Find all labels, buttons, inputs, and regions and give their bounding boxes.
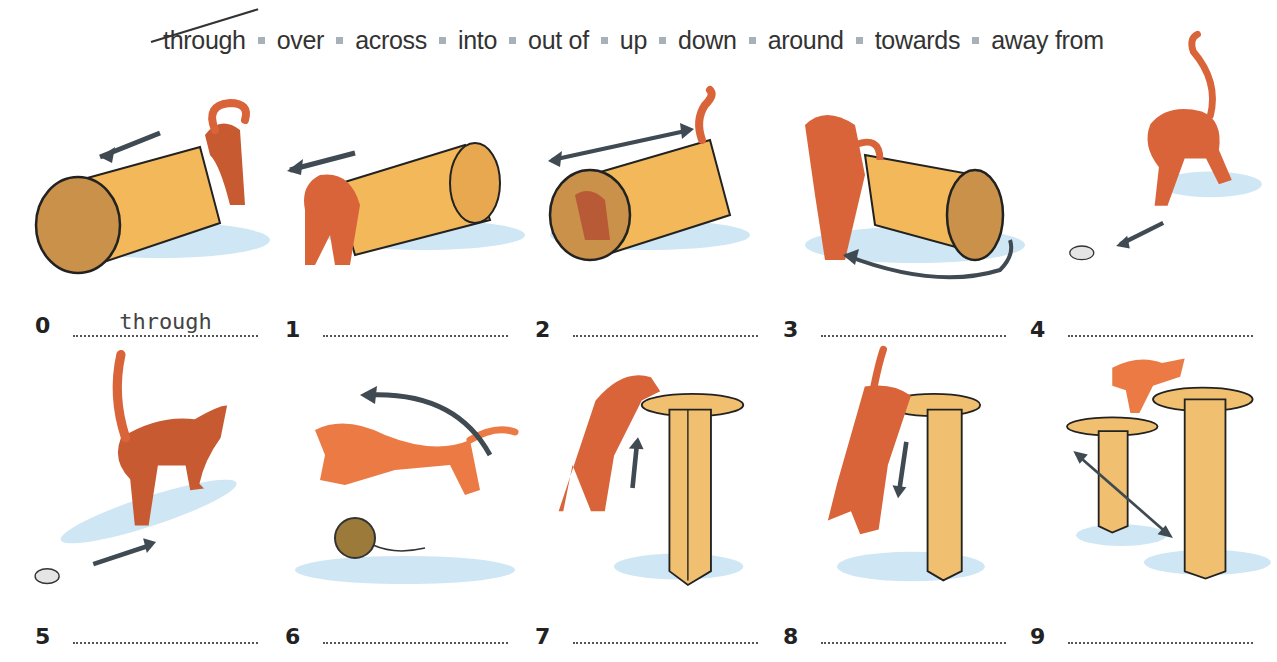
answer-line[interactable]	[573, 313, 758, 337]
cat	[304, 174, 360, 265]
answer-row: 3	[783, 313, 1006, 342]
answer-line[interactable]	[1068, 313, 1253, 337]
separator-square	[336, 37, 343, 44]
illustration-1	[275, 75, 520, 315]
answer-line[interactable]	[323, 620, 508, 644]
mouse-icon	[1070, 246, 1094, 260]
word-bank-item: around	[768, 26, 844, 55]
cat-tail	[874, 350, 883, 387]
answer-text: through	[119, 309, 212, 334]
answer-row: 4	[1030, 313, 1253, 342]
word-bank-item: over	[277, 26, 324, 55]
mouse-icon	[35, 569, 59, 584]
cat-tail	[117, 355, 125, 438]
item-number: 7	[535, 624, 573, 649]
item-number: 1	[285, 317, 323, 342]
word-bank-item: down	[678, 26, 737, 55]
answer-line[interactable]	[821, 620, 1006, 644]
illustration-9	[1045, 345, 1277, 585]
answer-row: 8	[783, 620, 1006, 649]
arrow-down-icon	[899, 442, 906, 493]
word-bank-item: towards	[875, 26, 960, 55]
answer-line[interactable]	[323, 313, 508, 337]
cat	[315, 424, 480, 495]
word-bank-item: through	[163, 26, 246, 55]
answer-line[interactable]	[1068, 620, 1253, 644]
cat-tail	[699, 90, 712, 140]
illustration-5	[10, 350, 255, 590]
answer-row: 1	[285, 313, 508, 342]
separator-square	[601, 37, 608, 44]
illustration-7	[540, 345, 785, 585]
post	[928, 410, 962, 581]
separator-square	[439, 37, 446, 44]
item-number: 9	[1030, 624, 1068, 649]
illustration-2	[530, 75, 775, 315]
separator-square	[856, 37, 863, 44]
answer-line[interactable]	[821, 313, 1006, 337]
answer-row: 6	[285, 620, 508, 649]
separator-square	[659, 37, 666, 44]
cat	[559, 375, 661, 511]
item-number: 5	[35, 624, 73, 649]
separator-square	[258, 37, 265, 44]
separator-square	[972, 37, 979, 44]
answer-row: 5	[35, 620, 258, 649]
illustration-0	[20, 75, 265, 315]
answer-line[interactable]	[73, 620, 258, 644]
word-bank-item: across	[355, 26, 427, 55]
word-bank: through over across into out of up down …	[163, 22, 1104, 58]
separator-square	[509, 37, 516, 44]
item-number: 0	[35, 313, 73, 338]
word-bank-item: into	[458, 26, 497, 55]
post	[1185, 399, 1226, 578]
word-bank-item: out of	[528, 26, 589, 55]
illustration-8	[800, 345, 1045, 585]
answer-row: 0 through	[35, 313, 258, 338]
word-bank-item: up	[620, 26, 647, 55]
answer-line[interactable]	[573, 620, 758, 644]
item-number: 3	[783, 317, 821, 342]
illustration-4	[1030, 30, 1275, 270]
illustration-6	[285, 370, 530, 610]
tunnel-opening	[36, 177, 120, 273]
cat-tail	[1192, 34, 1213, 115]
ball-of-wool-icon	[335, 518, 375, 558]
item-number: 6	[285, 624, 323, 649]
answer-row: 2	[535, 313, 758, 342]
answer-line[interactable]: through	[73, 313, 258, 337]
post	[669, 410, 711, 585]
item-number: 2	[535, 317, 573, 342]
cat	[828, 385, 911, 534]
illustration-3	[785, 75, 1030, 315]
answer-row: 7	[535, 620, 758, 649]
separator-square	[749, 37, 756, 44]
arrow-icon	[93, 546, 148, 564]
post	[1099, 431, 1128, 532]
item-number: 4	[1030, 317, 1068, 342]
item-number: 8	[783, 624, 821, 649]
answer-row: 9	[1030, 620, 1253, 649]
